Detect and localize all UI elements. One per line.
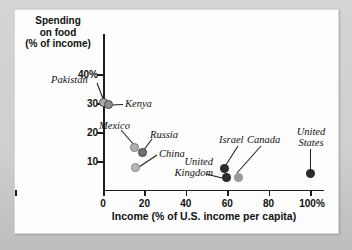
chart-card: Spending on food (% of income) Income (%… bbox=[14, 9, 339, 234]
y-axis-title: Spending on food (% of income) bbox=[17, 15, 99, 50]
figure-root: Spending on food (% of income) Income (%… bbox=[0, 0, 352, 250]
point-label-uk-line-2: Kingdom bbox=[157, 167, 213, 178]
x-tick-label-0: 0 bbox=[83, 198, 123, 209]
x-axis-line bbox=[103, 190, 324, 192]
data-point-united-kingdom[interactable] bbox=[222, 173, 231, 182]
y-tick-label-10: 10 bbox=[38, 156, 98, 167]
point-label-israel: Israel bbox=[219, 134, 244, 145]
point-label-kenya: Kenya bbox=[125, 98, 152, 109]
leader-kenya bbox=[112, 105, 123, 106]
y-axis-line bbox=[103, 34, 105, 190]
point-label-us-line-1: United bbox=[285, 126, 337, 137]
data-point-israel[interactable] bbox=[220, 164, 229, 173]
x-tick-100 bbox=[310, 190, 312, 196]
x-tick-label-100: 100% bbox=[292, 198, 332, 209]
data-point-russia[interactable] bbox=[138, 148, 147, 157]
data-point-united-states[interactable] bbox=[306, 169, 315, 178]
x-axis-title: Income (% of U.S. income per capita) bbox=[75, 210, 333, 222]
point-label-united-states: United States bbox=[285, 126, 337, 148]
point-label-mexico: Mexico bbox=[99, 120, 130, 131]
point-label-uk-line-1: United bbox=[157, 156, 213, 167]
x-tick-80 bbox=[269, 190, 271, 196]
scatter-plot-area: Spending on food (% of income) Income (%… bbox=[15, 10, 338, 233]
y-tick-20 bbox=[97, 132, 104, 134]
x-tick-label-20: 20 bbox=[124, 198, 164, 209]
point-label-russia: Russia bbox=[150, 129, 178, 140]
data-point-kenya[interactable] bbox=[104, 100, 113, 109]
x-tick-20 bbox=[144, 190, 146, 196]
point-label-canada: Canada bbox=[247, 134, 280, 145]
point-label-us-line-2: States bbox=[285, 137, 337, 148]
y-tick-10 bbox=[97, 161, 104, 163]
point-label-united-kingdom: United Kingdom bbox=[157, 156, 213, 178]
point-label-pakistan: Pakistan bbox=[51, 74, 88, 85]
y-tick-label-30: 30 bbox=[38, 98, 98, 109]
y-axis-title-line-3: (% of income) bbox=[17, 38, 99, 50]
data-point-canada[interactable] bbox=[234, 173, 243, 182]
x-tick-label-60: 60 bbox=[207, 198, 247, 209]
y-axis-title-line-1: Spending bbox=[17, 15, 99, 27]
y-axis-title-line-2: on food bbox=[17, 27, 99, 39]
leader-canada bbox=[237, 146, 261, 173]
y-tick-label-20: 20 bbox=[38, 127, 98, 138]
leader-china bbox=[139, 155, 157, 167]
data-point-china[interactable] bbox=[131, 163, 140, 172]
y-tick-40 bbox=[97, 74, 104, 76]
x-tick-60 bbox=[227, 190, 229, 196]
x-tick-label-80: 80 bbox=[249, 198, 289, 209]
x-tick-40 bbox=[186, 190, 188, 196]
x-tick-0 bbox=[103, 190, 105, 196]
x-tick-label-40: 40 bbox=[166, 198, 206, 209]
